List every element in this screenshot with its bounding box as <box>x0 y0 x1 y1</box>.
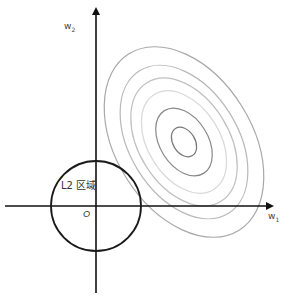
l2-regularization-diagram <box>0 0 285 307</box>
contour-ellipse <box>71 18 285 266</box>
contour-ellipse <box>166 123 202 162</box>
x-axis-label: w1 <box>268 211 279 223</box>
l2-region-label: L2 区域 <box>61 177 96 192</box>
contour-ellipse <box>124 75 244 208</box>
y-axis-label: w2 <box>64 21 75 33</box>
contour-ellipse <box>94 42 275 242</box>
y-axis-label-subscript: 2 <box>71 26 75 33</box>
contour-ellipse <box>109 59 260 225</box>
x-axis-label-subscript: 1 <box>275 216 279 223</box>
contour-ellipse <box>144 98 224 186</box>
loss-contour-ellipses <box>71 18 285 266</box>
origin-label: O <box>83 209 90 219</box>
